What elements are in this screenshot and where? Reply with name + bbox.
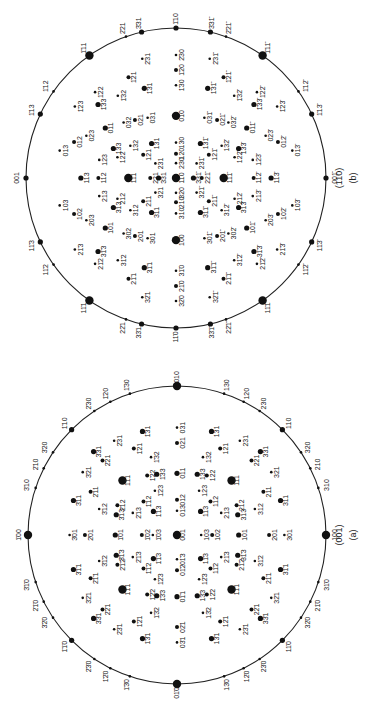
pole-label: 311 bbox=[153, 207, 160, 218]
pole-label: 21̄1 bbox=[265, 572, 272, 584]
pole-label: 32̄0 bbox=[304, 617, 311, 629]
pole-label: 112 bbox=[212, 496, 219, 507]
pole-marker bbox=[109, 400, 112, 403]
pole-label: 310 bbox=[178, 207, 185, 219]
pole-label: 321̄ bbox=[198, 186, 205, 199]
pole-marker bbox=[69, 638, 74, 643]
pole-label: 201̄ bbox=[219, 229, 226, 242]
pole-label: 331 bbox=[160, 172, 167, 184]
pole-label: 102 bbox=[76, 208, 83, 220]
pole-label: 01̄0 bbox=[173, 687, 180, 699]
pole-marker bbox=[42, 600, 45, 603]
pole-label: 101 bbox=[107, 222, 114, 234]
pole-label: 310 bbox=[323, 479, 330, 491]
pole-label: 321 bbox=[157, 187, 164, 199]
pole-label: 11̄3 bbox=[28, 240, 35, 251]
pole-marker bbox=[52, 451, 55, 454]
pole-label: 1̄31̄ bbox=[210, 81, 217, 94]
pole-label: 012 bbox=[76, 136, 83, 148]
pole-label: 3̄10 bbox=[23, 479, 30, 491]
pole-label: 210 bbox=[314, 458, 321, 470]
pole-label: 111̄ bbox=[226, 172, 233, 184]
pole-label: 1̄3̄1 bbox=[144, 633, 151, 645]
pole-label: 11̄2 bbox=[42, 264, 49, 275]
pole-label: 21̄1 bbox=[130, 273, 137, 285]
pole-label: 3̄31 bbox=[135, 17, 142, 29]
pole-label: 011̄ bbox=[249, 121, 256, 133]
pole-label: 100 bbox=[178, 234, 185, 246]
pole-label: 2̄30 bbox=[178, 49, 185, 61]
pole-label: 312 bbox=[257, 503, 264, 515]
pole-label: 1̄11 bbox=[124, 475, 131, 486]
pole-label: 123 bbox=[201, 485, 208, 497]
pole-marker bbox=[109, 667, 112, 670]
pole-label: 31̄2̄ bbox=[236, 253, 243, 266]
pole-label: 1̄23 bbox=[157, 485, 164, 497]
pole-marker bbox=[24, 531, 32, 539]
pole-label: 1̄21 bbox=[130, 71, 137, 83]
pole-label: 2̄31 bbox=[144, 53, 151, 65]
pole-label: 113 bbox=[83, 172, 90, 183]
pole-label: 1̄1̄3 bbox=[155, 553, 162, 565]
pole-label: 320 bbox=[304, 441, 311, 453]
pole-label: 32̄1̄ bbox=[212, 290, 219, 303]
pole-label: 013 bbox=[179, 505, 186, 517]
pole-label: 31̄1̄ bbox=[210, 261, 217, 274]
pole-marker bbox=[223, 392, 226, 395]
pole-label: 1̄10 bbox=[172, 13, 179, 25]
pole-label: 133 bbox=[199, 468, 206, 480]
pole-label: 1̄2̄1 bbox=[136, 615, 143, 627]
pole-marker bbox=[173, 325, 178, 330]
pole-label: 21̄3 bbox=[223, 551, 230, 563]
pole-label: 33̄1 bbox=[135, 327, 142, 339]
pole-label: 32̄0 bbox=[178, 295, 185, 307]
pole-label: 3̄01 bbox=[71, 529, 78, 541]
pole-label: 132 bbox=[205, 451, 212, 463]
pole-label: 121̄ bbox=[211, 148, 218, 161]
pole-label: 012 bbox=[179, 494, 186, 506]
pole-label: 102 bbox=[214, 529, 221, 541]
pole-label: 112 bbox=[100, 172, 107, 183]
pole-label: 301 bbox=[149, 232, 156, 244]
pole-label: 1̄20 bbox=[178, 64, 185, 76]
pole-label: 2̄3̄0 bbox=[85, 661, 92, 673]
pole-label: 1̄3̄2 bbox=[153, 607, 160, 619]
pole-label: 1̄13̄ bbox=[316, 103, 323, 116]
pole-label: 1̄31 bbox=[146, 82, 153, 94]
pole-label: 2̄31̄ bbox=[212, 52, 219, 65]
pole-marker bbox=[125, 35, 128, 38]
pole-label: 1̄32 bbox=[153, 451, 160, 463]
projection-110: 110001001̄1̄1011̄0100010111111̄1̄111̄11̄… bbox=[13, 13, 358, 343]
pole-label: 11̄1 bbox=[233, 584, 240, 595]
pole-label: 2̄11 bbox=[92, 486, 99, 497]
projection-001: 0011001̄0001001̄01101̄1011̄01̄1̄01111̄11… bbox=[15, 371, 358, 699]
pole-label: 31̄2 bbox=[120, 254, 127, 266]
pole-label: 211̄ bbox=[211, 195, 218, 207]
pole-marker bbox=[125, 318, 128, 321]
pole-label: 211 bbox=[145, 196, 152, 207]
pole-marker bbox=[297, 90, 300, 93]
pole-label: 102̄ bbox=[280, 207, 287, 220]
pole-label: 31̄3 bbox=[100, 246, 107, 258]
pole-label: 1̄11̄ bbox=[264, 42, 271, 54]
pole-label: 2̄21 bbox=[119, 22, 126, 34]
pole-label: 221̄ bbox=[204, 171, 211, 184]
pole-label: 23̄0 bbox=[260, 661, 267, 673]
pole-label: 231̄ bbox=[198, 157, 205, 170]
pole-label: 11̄3̄ bbox=[316, 239, 323, 251]
pole-label: 1̄21̄ bbox=[225, 70, 232, 83]
pole-label: 1̄22 bbox=[97, 86, 104, 98]
pole-label: 013̄ bbox=[294, 144, 301, 157]
pole-label: 1̄10 bbox=[61, 417, 68, 429]
pole-label: 112̄ bbox=[255, 171, 262, 183]
pole-label: 031 bbox=[149, 112, 156, 124]
pole-marker bbox=[225, 318, 228, 321]
pole-label: 103 bbox=[62, 199, 69, 211]
pole-label: 11̄0 bbox=[172, 331, 179, 342]
pole-label: 313̄ bbox=[240, 201, 247, 214]
pole-label: 31̄0 bbox=[323, 579, 330, 591]
pole-label: 1̄1̄1 bbox=[124, 584, 131, 596]
pole-label: 203̄ bbox=[267, 213, 274, 226]
pole-label: 010 bbox=[173, 371, 180, 383]
pole-label: 12̄0 bbox=[244, 670, 251, 682]
